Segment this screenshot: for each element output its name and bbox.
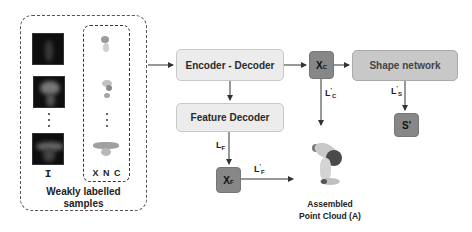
lfp-base: L (254, 164, 260, 174)
xf-node: XF (216, 167, 241, 193)
ls-sub: S (398, 91, 402, 97)
lf-label: LF (216, 140, 225, 150)
feature-decoder-node: Feature Decoder (176, 103, 284, 132)
assembled-label-line2: Point Cloud (A) (285, 210, 375, 222)
xf-base: X (223, 175, 230, 186)
assembled-label-line1: Assembled (285, 198, 375, 210)
lf-prime-label: L'F (254, 164, 265, 174)
lfp-sub: F (261, 169, 265, 175)
lf-sub: F (222, 145, 226, 151)
xc-node: XC (309, 51, 334, 79)
ls-base: L (391, 86, 397, 96)
lc-prime-label: L'C (325, 88, 336, 98)
xc-base: X (316, 60, 323, 71)
xf-sub: F (230, 179, 234, 185)
encoder-decoder-node: Encoder - Decoder (176, 49, 284, 81)
lc-base: L (325, 88, 331, 98)
s-prime-node: S' (394, 113, 419, 137)
shape-network-node: Shape network (352, 50, 458, 81)
assembled-label: Assembled Point Cloud (A) (285, 198, 375, 222)
assembled-point-cloud-image (310, 142, 350, 190)
lc-sub: C (332, 93, 336, 99)
xc-sub: C (323, 64, 327, 70)
ls-prime-label: L'S (391, 86, 402, 96)
lf-base: L (216, 140, 222, 150)
